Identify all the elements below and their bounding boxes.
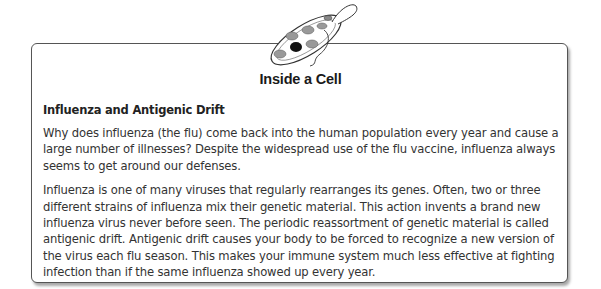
box-title: Inside a Cell: [0, 71, 601, 87]
paragraph-2: Influenza is one of many viruses that re…: [43, 182, 563, 280]
paragraph-1: Why does influenza (the flu) come back i…: [43, 125, 563, 174]
box-content: Influenza and Antigenic Drift Why does i…: [43, 103, 563, 289]
paramecium-cell-icon: [262, 0, 358, 68]
section-heading: Influenza and Antigenic Drift: [43, 103, 563, 117]
